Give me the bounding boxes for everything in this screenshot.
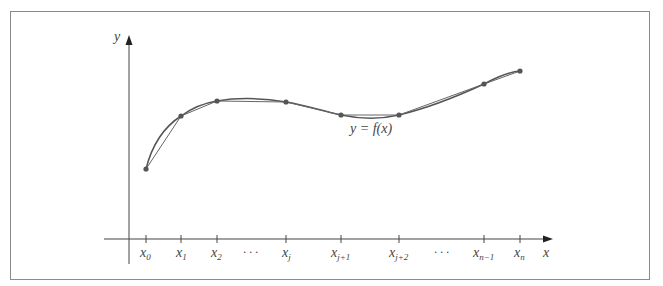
ellipsis-1: · · ·	[243, 245, 258, 259]
y-axis-label: y	[112, 29, 121, 44]
chord-polyline	[146, 71, 520, 169]
label-xn1: xn−1	[472, 245, 494, 262]
x-axis-label: x	[542, 245, 550, 260]
label-xj: xj	[281, 245, 291, 262]
label-xj1: xj+1	[330, 245, 350, 262]
ellipsis-2: · · ·	[434, 245, 449, 259]
label-x1: x1	[175, 245, 187, 262]
label-xn: xn	[513, 245, 525, 262]
partition-points	[143, 68, 522, 171]
curve-diagram: y x x0 x1 x2 · · · xj xj+1 xj+2 · · · xn…	[0, 0, 663, 286]
label-x2: x2	[210, 245, 222, 262]
x-axis-arrow-icon	[543, 236, 553, 243]
axes	[104, 44, 546, 264]
curve-label: y = f(x)	[348, 121, 392, 137]
partition-labels: x0 x1 x2 · · · xj xj+1 xj+2 · · · xn−1 x…	[139, 245, 525, 262]
curve-f	[146, 71, 520, 169]
y-axis-arrow-icon	[126, 35, 133, 45]
label-xj2: xj+2	[388, 245, 409, 262]
label-x0: x0	[139, 245, 151, 262]
